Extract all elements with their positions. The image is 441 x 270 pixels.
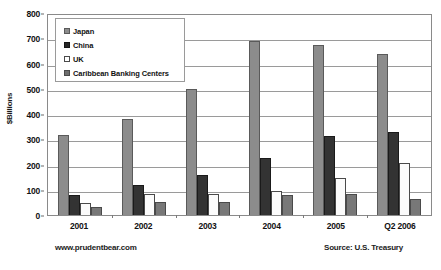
bar-china[interactable]: [69, 195, 80, 215]
category-tick: [239, 215, 240, 218]
bar-caribbean-banking-centers[interactable]: [410, 199, 421, 215]
y-tick-label: 200: [26, 161, 40, 171]
bar-japan[interactable]: [58, 135, 69, 215]
bar-group: [303, 15, 367, 215]
bar-china[interactable]: [133, 185, 144, 215]
bar-group: [367, 15, 431, 215]
x-tick-label: 2003: [175, 221, 239, 231]
bar-japan[interactable]: [249, 41, 260, 215]
y-tick-mark: [41, 14, 44, 15]
bar-caribbean-banking-centers[interactable]: [346, 194, 357, 215]
x-tick-label: 2004: [240, 221, 304, 231]
x-tick-label: 2001: [47, 221, 111, 231]
legend-item[interactable]: UK: [64, 52, 184, 66]
legend-swatch-icon: [64, 28, 70, 34]
legend-swatch-icon: [64, 42, 70, 48]
x-axis-labels: 20012002200320042005Q2 2006: [47, 221, 432, 231]
legend-item[interactable]: Caribbean Banking Centers: [64, 66, 184, 80]
bar-uk[interactable]: [208, 194, 219, 215]
bar-caribbean-banking-centers[interactable]: [155, 202, 166, 215]
bar-group: [176, 15, 240, 215]
bar-set: [303, 15, 367, 215]
bar-japan[interactable]: [122, 119, 133, 215]
y-tick-label: 0: [35, 211, 40, 221]
bar-set: [176, 15, 240, 215]
legend-label: China: [73, 41, 93, 50]
y-tick-label: 300: [26, 135, 40, 145]
y-tick-mark: [41, 190, 44, 191]
y-tick-label: 800: [26, 9, 40, 19]
bar-uk[interactable]: [271, 191, 282, 215]
category-tick: [112, 215, 113, 218]
x-tick-label: 2005: [304, 221, 368, 231]
chart-legend: JapanChinaUKCaribbean Banking Centers: [55, 18, 185, 82]
bar-japan[interactable]: [377, 54, 388, 215]
bar-chart: $Billions 0100200300400500600700800 2001…: [0, 0, 441, 270]
bar-set: [239, 15, 303, 215]
bar-caribbean-banking-centers[interactable]: [282, 195, 293, 215]
bar-set: [367, 15, 431, 215]
legend-swatch-icon: [64, 56, 70, 62]
legend-label: UK: [73, 55, 84, 64]
x-tick-label: 2002: [111, 221, 175, 231]
y-tick-mark: [41, 216, 44, 217]
legend-label: Caribbean Banking Centers: [73, 69, 169, 78]
bar-uk[interactable]: [399, 163, 410, 215]
y-axis-ticks: 0100200300400500600700800: [16, 14, 44, 216]
bar-group: [239, 15, 303, 215]
y-tick-label: 600: [26, 60, 40, 70]
y-tick-mark: [41, 165, 44, 166]
y-tick-label: 100: [26, 186, 40, 196]
bar-uk[interactable]: [144, 194, 155, 215]
bar-china[interactable]: [260, 158, 271, 215]
legend-label: Japan: [73, 27, 94, 36]
y-tick-mark: [41, 64, 44, 65]
category-tick: [303, 215, 304, 218]
bar-uk[interactable]: [80, 203, 91, 215]
y-tick-label: 700: [26, 34, 40, 44]
bar-caribbean-banking-centers[interactable]: [219, 202, 230, 215]
bar-china[interactable]: [324, 136, 335, 215]
y-tick-label: 400: [26, 110, 40, 120]
x-tick-label: Q2 2006: [368, 221, 432, 231]
footer-source: Source: U.S. Treasury: [324, 243, 403, 252]
footer-website: www.prudentbear.com: [55, 243, 137, 252]
bar-japan[interactable]: [186, 89, 197, 215]
y-tick-mark: [41, 89, 44, 90]
y-tick-mark: [41, 39, 44, 40]
legend-item[interactable]: China: [64, 38, 184, 52]
y-tick-mark: [41, 115, 44, 116]
bar-caribbean-banking-centers[interactable]: [91, 207, 102, 215]
legend-swatch-icon: [64, 70, 70, 76]
y-tick-mark: [41, 140, 44, 141]
bar-china[interactable]: [388, 132, 399, 215]
legend-item[interactable]: Japan: [64, 24, 184, 38]
bar-china[interactable]: [197, 175, 208, 215]
bar-japan[interactable]: [313, 45, 324, 215]
bar-uk[interactable]: [335, 178, 346, 215]
y-axis-title-label: $Billions: [6, 92, 15, 124]
category-tick: [176, 215, 177, 218]
category-tick: [367, 215, 368, 218]
y-tick-label: 500: [26, 85, 40, 95]
